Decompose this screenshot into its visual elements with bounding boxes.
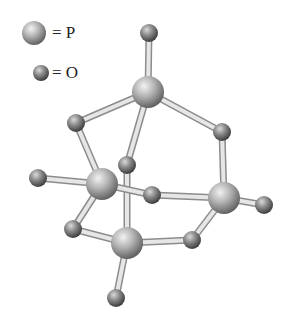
legend-label-p: = P [52,24,75,41]
atom-o [118,156,136,174]
legend-label-o: = O [52,64,78,81]
molecule-diagram [0,0,281,309]
atom-o [107,289,125,307]
atom-o [64,220,82,238]
legend-o-sphere-icon [33,65,49,81]
atom-o [140,24,158,42]
atom-p [86,168,118,200]
atom-p [132,76,164,108]
atom-o [143,186,161,204]
atom-o [29,169,47,187]
legend [22,21,49,81]
atom-p [208,182,240,214]
atom-p [111,227,143,259]
legend-p-sphere-icon [22,21,46,45]
atom-o [255,196,273,214]
atom-o [183,231,201,249]
atom-o [67,114,85,132]
atom-o [213,123,231,141]
